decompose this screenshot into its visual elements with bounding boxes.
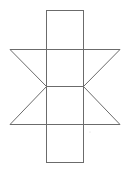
lower-left-triangle-edge	[10, 87, 47, 125]
upper-left-triangle-edge	[10, 50, 47, 87]
prism-net-diagram	[0, 0, 129, 170]
artifact-dot	[89, 131, 90, 132]
upper-right-triangle-edge	[84, 50, 121, 87]
prism-net-svg	[0, 0, 129, 170]
lower-right-triangle-edge	[84, 87, 121, 125]
